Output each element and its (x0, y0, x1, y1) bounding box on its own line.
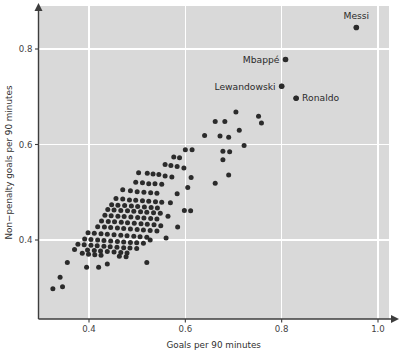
data-point (132, 221, 137, 226)
data-point (163, 174, 168, 179)
data-point (92, 252, 97, 257)
data-point (177, 155, 182, 160)
data-point (155, 206, 160, 211)
data-point (120, 187, 125, 192)
data-point (105, 261, 110, 266)
data-point (213, 119, 218, 124)
data-point (144, 210, 149, 215)
data-point (112, 249, 117, 254)
data-point (102, 225, 107, 230)
data-point (95, 238, 100, 243)
data-point (148, 216, 153, 221)
data-point (113, 196, 118, 201)
data-point (140, 180, 145, 185)
data-point (256, 114, 261, 119)
data-point (140, 198, 145, 203)
data-point (154, 216, 159, 221)
data-point (148, 238, 153, 243)
data-point (175, 164, 180, 169)
data-point (115, 226, 120, 231)
data-point (112, 207, 117, 212)
data-point (138, 234, 143, 239)
data-point (185, 185, 190, 190)
data-point (175, 225, 180, 230)
data-point (122, 214, 127, 219)
data-point (153, 199, 158, 204)
data-point (133, 180, 138, 185)
data-point (158, 211, 163, 216)
data-point (154, 228, 159, 233)
data-point (118, 208, 123, 213)
data-point (75, 242, 80, 247)
data-point (133, 198, 138, 203)
data-point (106, 219, 111, 224)
data-point (95, 224, 100, 229)
data-point (121, 239, 126, 244)
data-point (218, 133, 223, 138)
data-point (108, 225, 113, 230)
data-point (149, 205, 154, 210)
data-point (72, 247, 77, 252)
data-point (119, 220, 124, 225)
data-point (114, 245, 119, 250)
data-point (134, 246, 139, 251)
data-point (99, 218, 104, 223)
data-point (60, 284, 65, 289)
data-point (80, 251, 85, 256)
data-point (158, 223, 163, 228)
data-point (120, 196, 125, 201)
data-point (88, 237, 93, 242)
data-point (135, 204, 140, 209)
data-point (168, 200, 173, 205)
data-point (108, 238, 113, 243)
data-point (182, 208, 187, 213)
data-point (135, 227, 140, 232)
data-point (65, 260, 70, 265)
data-point (146, 199, 151, 204)
x-tick-label: 0.8 (275, 324, 289, 334)
data-point (128, 227, 133, 232)
data-point (259, 121, 264, 126)
data-point (108, 244, 113, 249)
plot-panel-background (39, 6, 390, 319)
data-point (152, 181, 157, 186)
data-point (101, 238, 106, 243)
data-point (125, 233, 130, 238)
data-point (88, 243, 93, 248)
data-point (188, 208, 193, 213)
data-point (227, 149, 232, 154)
data-point (121, 226, 126, 231)
data-point (95, 243, 100, 248)
data-point (115, 203, 120, 208)
x-tick-label: 0.4 (82, 324, 96, 334)
data-point (86, 230, 91, 235)
data-point (154, 191, 159, 196)
data-point (148, 228, 153, 233)
data-point (125, 220, 130, 225)
data-point (131, 234, 136, 239)
data-point (156, 172, 161, 177)
data-point (82, 237, 87, 242)
data-point (226, 173, 231, 178)
data-point (222, 119, 227, 124)
data-point (122, 203, 127, 208)
data-point (146, 181, 151, 186)
data-point (141, 227, 146, 232)
data-point (121, 245, 126, 250)
data-point (136, 170, 141, 175)
x-axis-arrowhead (391, 315, 399, 323)
data-point (135, 189, 140, 194)
data-point (58, 275, 63, 280)
data-point (128, 240, 133, 245)
data-point (159, 200, 164, 205)
data-point (213, 181, 218, 186)
data-point (141, 190, 146, 195)
x-tick-label: 1.0 (371, 324, 385, 334)
data-point (190, 147, 195, 152)
data-point (85, 248, 90, 253)
data-point (105, 249, 110, 254)
data-point (226, 135, 231, 140)
y-tick-label: 0.4 (19, 235, 33, 245)
data-point (181, 165, 186, 170)
data-point (112, 232, 117, 237)
